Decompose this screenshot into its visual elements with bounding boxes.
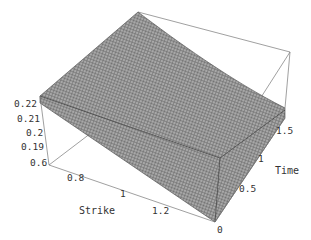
x-axis-label: Strike [79,205,115,216]
x-tick: 0.8 [67,173,84,183]
y-axis-label: Time [275,165,299,176]
y-tick: 1 [258,154,264,164]
x-tick: 1 [120,189,126,199]
z-tick: 0.2 [26,128,43,138]
y-tick: 0.5 [239,184,256,194]
z-tick: 0.19 [21,142,44,152]
surface-plot [0,0,311,240]
y-tick: 1.5 [276,126,293,136]
z-tick: 0.21 [17,114,40,124]
z-tick: 0.22 [14,99,37,109]
x-tick: 1.2 [152,206,169,216]
x-tick: 0.6 [30,158,47,168]
y-tick: 0 [217,225,223,235]
